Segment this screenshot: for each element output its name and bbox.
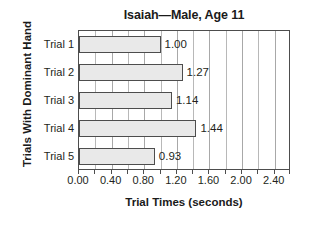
category-label: Trial 3 xyxy=(44,86,74,114)
category-label: Trial 1 xyxy=(44,30,74,58)
category-label: Trial 2 xyxy=(44,58,74,86)
bar-chart: Isaiah—Male, Age 11 Trials With Dominant… xyxy=(0,0,310,230)
x-axis-tick-labels: 0.000.400.801.201.602.002.40 xyxy=(0,174,310,190)
category-label: Trial 4 xyxy=(44,114,74,142)
bar xyxy=(79,92,172,109)
bar xyxy=(79,64,183,81)
bar xyxy=(79,120,196,137)
bar-row xyxy=(79,31,289,59)
x-axis-title: Trial Times (seconds) xyxy=(78,196,290,208)
bar xyxy=(79,148,155,165)
bar-row xyxy=(79,115,289,143)
x-tick-label: 0.40 xyxy=(100,174,121,186)
bar xyxy=(79,36,161,53)
x-tick-label: 0.80 xyxy=(133,174,154,186)
plot-area xyxy=(78,30,290,170)
x-tick-label: 0.00 xyxy=(67,174,88,186)
x-tick-label: 1.20 xyxy=(165,174,186,186)
chart-title: Isaiah—Male, Age 11 xyxy=(78,8,290,22)
category-label: Trial 5 xyxy=(44,142,74,170)
x-tick-label: 1.60 xyxy=(198,174,219,186)
bar-row xyxy=(79,59,289,87)
x-tick-label: 2.40 xyxy=(263,174,284,186)
y-axis-category-labels: Trial 1Trial 2Trial 3Trial 4Trial 5 xyxy=(22,30,76,170)
bar-row xyxy=(79,87,289,115)
bar-row xyxy=(79,143,289,170)
x-tick-label: 2.00 xyxy=(230,174,251,186)
